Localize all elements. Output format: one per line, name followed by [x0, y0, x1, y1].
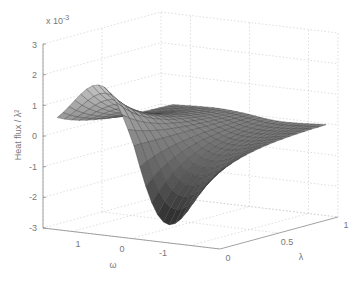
z-tick: 2	[32, 70, 37, 80]
surface-plot: x 10-3 3 2 1 0 -1 -2 -3 Heat flux / λ² 1…	[0, 0, 358, 282]
y-tick: 1	[343, 220, 348, 230]
z-tick: 0	[32, 131, 37, 141]
x-tick: 0	[119, 244, 124, 254]
z-tick: -3	[29, 223, 37, 233]
z-tick-labels: 3 2 1 0 -1 -2 -3	[29, 40, 37, 233]
z-tick: -2	[29, 192, 37, 202]
z-exponent-label: x 10-3	[46, 14, 69, 26]
y-tick-labels: 0 0.5 1	[225, 220, 348, 263]
y-tick: 0.5	[281, 237, 294, 247]
z-tick: -1	[29, 162, 37, 172]
z-tick: 3	[32, 40, 37, 50]
x-tick: 1	[75, 239, 80, 249]
heat-flux-surface	[57, 85, 326, 225]
x-tick: -1	[159, 248, 167, 258]
x-axis-label: ω	[109, 260, 116, 270]
z-tick: 1	[32, 101, 37, 111]
y-axis-label: λ	[299, 252, 304, 262]
y-tick: 0	[225, 253, 230, 263]
x-tick-labels: 1 0 -1	[75, 239, 167, 258]
z-axis-label: Heat flux / λ²	[13, 110, 23, 161]
